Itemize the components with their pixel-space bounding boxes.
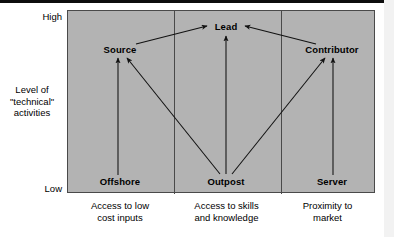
column-divider-2 bbox=[281, 11, 282, 194]
axis-title-vertical: Level of "technical" activities bbox=[2, 84, 62, 119]
node-contributor[interactable]: Contributor bbox=[305, 45, 358, 55]
axis-label-low: Low bbox=[27, 183, 62, 194]
diagram-root: Source Lead Contributor Offshore Outpost… bbox=[0, 0, 394, 237]
node-offshore[interactable]: Offshore bbox=[100, 177, 140, 187]
scan-artifact-top-strip bbox=[0, 0, 394, 3]
scan-artifact-right-margin bbox=[384, 0, 394, 237]
node-lead[interactable]: Lead bbox=[215, 22, 238, 32]
node-server[interactable]: Server bbox=[317, 177, 347, 187]
column-caption-server: Proximity to market bbox=[280, 200, 375, 224]
axis-label-high: High bbox=[27, 11, 62, 22]
node-outpost[interactable]: Outpost bbox=[207, 177, 244, 187]
column-caption-outpost: Access to skills and knowledge bbox=[173, 200, 280, 224]
column-caption-offshore: Access to low cost inputs bbox=[67, 200, 173, 224]
column-divider-1 bbox=[174, 11, 175, 194]
plot-area bbox=[67, 10, 375, 193]
node-source[interactable]: Source bbox=[104, 45, 137, 55]
